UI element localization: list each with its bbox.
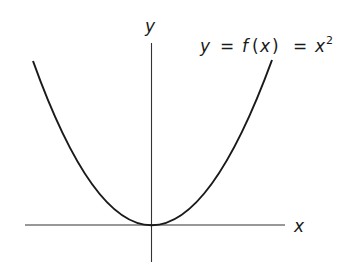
eq-x-base: x [314, 36, 326, 56]
parabola-curve [33, 60, 272, 225]
eq-equals-2: = [293, 36, 307, 56]
eq-close-paren: ) [272, 36, 279, 56]
equation-label: y = f ( x ) = x 2 [199, 34, 333, 56]
x-axis-label: x [293, 216, 305, 236]
eq-f: f [242, 36, 251, 56]
eq-y: y [199, 36, 211, 56]
y-axis-label: y [144, 16, 156, 36]
eq-exponent: 2 [326, 34, 333, 47]
eq-equals-1: = [220, 36, 234, 56]
eq-x: x [259, 36, 271, 56]
parabola-figure: y x y = f ( x ) = x 2 [0, 0, 355, 268]
eq-open-paren: ( [252, 36, 259, 56]
